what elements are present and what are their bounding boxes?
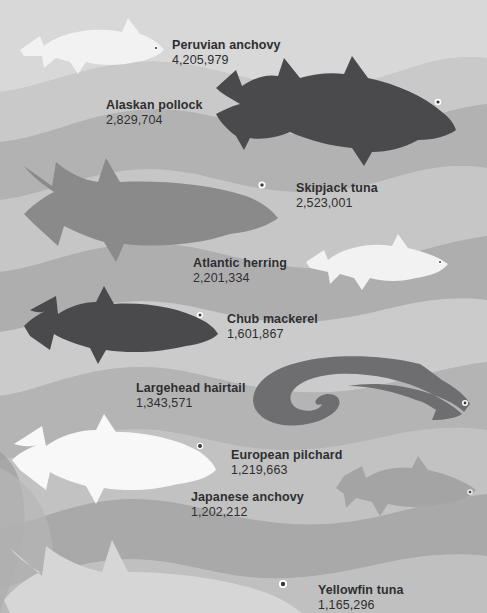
- species-value: 2,201,334: [193, 271, 287, 286]
- species-name: Chub mackerel: [227, 312, 318, 327]
- fish-yellowfin-tuna: [4, 540, 302, 613]
- fish-european-pilchard: [12, 414, 216, 504]
- species-name: European pilchard: [231, 448, 342, 463]
- species-value: 2,523,001: [296, 196, 378, 211]
- label-japanese-anchovy: Japanese anchovy 1,202,212: [191, 490, 304, 521]
- fish-japanese-anchovy: [336, 456, 476, 516]
- species-name: Atlantic herring: [193, 256, 287, 271]
- species-name: Peruvian anchovy: [172, 38, 281, 53]
- label-atlantic-herring: Atlantic herring 2,201,334: [193, 256, 287, 287]
- species-name: Largehead hairtail: [136, 381, 245, 396]
- label-chub-mackerel: Chub mackerel 1,601,867: [227, 312, 318, 343]
- species-value: 1,165,296: [318, 598, 403, 613]
- species-value: 1,202,212: [191, 505, 304, 520]
- fish-alaskan-pollock: [216, 56, 456, 166]
- label-peruvian-anchovy: Peruvian anchovy 4,205,979: [172, 38, 281, 69]
- species-name: Japanese anchovy: [191, 490, 304, 505]
- label-yellowfin-tuna: Yellowfin tuna 1,165,296: [318, 583, 403, 613]
- species-value: 1,343,571: [136, 396, 245, 411]
- species-value: 1,219,663: [231, 463, 342, 478]
- fish-skipjack-tuna: [24, 158, 278, 262]
- species-value: 1,601,867: [227, 327, 318, 342]
- label-skipjack-tuna: Skipjack tuna 2,523,001: [296, 181, 378, 212]
- label-largehead-hairtail: Largehead hairtail 1,343,571: [136, 381, 245, 412]
- fish-chub-mackerel: [24, 286, 218, 364]
- species-value: 2,829,704: [106, 113, 203, 128]
- species-name: Skipjack tuna: [296, 181, 378, 196]
- label-european-pilchard: European pilchard 1,219,663: [231, 448, 342, 479]
- fish-largehead-hairtail: [253, 356, 470, 425]
- fish-catch-infographic: Peruvian anchovy 4,205,979 Alaskan pollo…: [0, 0, 487, 613]
- species-name: Alaskan pollock: [106, 98, 203, 113]
- species-value: 4,205,979: [172, 53, 281, 68]
- label-alaskan-pollock: Alaskan pollock 2,829,704: [106, 98, 203, 129]
- fish-atlantic-herring: [306, 234, 448, 290]
- species-name: Yellowfin tuna: [318, 583, 403, 598]
- fish-silhouettes: [0, 0, 487, 613]
- fish-peruvian-anchovy: [20, 18, 164, 74]
